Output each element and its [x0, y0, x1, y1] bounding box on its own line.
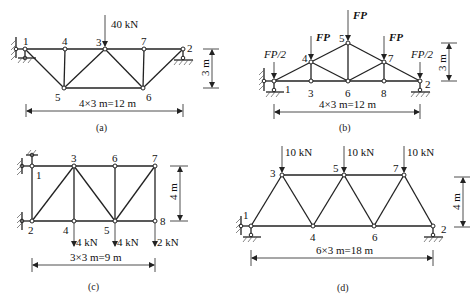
node-label: 5: [333, 162, 339, 174]
node-label: 1: [243, 209, 249, 221]
height-label-a: 3 m: [199, 59, 211, 76]
span-label-b: 4×3 m=12 m: [319, 98, 376, 110]
node-label: 3: [308, 87, 314, 99]
support-node1-c: [17, 150, 38, 175]
load-label-b: FP/2: [410, 48, 433, 60]
load-label-b: FP: [352, 9, 367, 21]
truss-members-b: [274, 43, 420, 81]
node-label: 1: [23, 35, 29, 47]
span-label-c: 3×3 m=9 m: [70, 251, 122, 263]
load-label-c: 4 kN: [117, 236, 139, 248]
node-label: 6: [146, 91, 152, 103]
caption-d: (d): [337, 282, 349, 294]
node-label: 4: [62, 35, 68, 47]
support-left-b: [259, 68, 284, 97]
span-label-d: 6×3 m=18 m: [316, 244, 373, 256]
load-label-d: 10 kN: [407, 146, 434, 158]
node-label: 2: [441, 223, 447, 235]
panel-c: 4 kN 4 kN 2 kN 1 3 6 7 2 4 5 8 4 m 3×3 m…: [17, 150, 188, 293]
height-label-b: 3 m: [436, 54, 448, 71]
load-label-d: 10 kN: [347, 146, 374, 158]
load-label-c: 2 kN: [157, 236, 179, 248]
node-label: 4: [310, 231, 316, 243]
node-label: 3: [96, 36, 102, 48]
node-label: 5: [104, 224, 110, 236]
load-label-b: FP: [388, 31, 403, 43]
panel-a: 40 kN 1 4 3 7 2 5 6 3 m 4×3 m=12 m (a): [11, 15, 219, 134]
node-label: 8: [381, 87, 387, 99]
support-left-d: [236, 216, 261, 242]
truss-nodes-a: [23, 47, 185, 90]
truss-members-a: [25, 49, 183, 88]
span-label-a: 4×3 m=12 m: [79, 97, 136, 109]
node-label: 2: [425, 78, 431, 90]
load-label-b: FP: [315, 31, 330, 43]
truss-nodes-c: [30, 164, 157, 223]
truss-nodes-b: [272, 41, 422, 83]
node-label: 3: [71, 152, 77, 164]
node-label: 5: [55, 91, 61, 103]
node-label: 6: [112, 152, 118, 164]
caption-b: (b): [339, 122, 351, 134]
truss-members-c: [32, 166, 155, 221]
height-label-c: 4 m: [167, 183, 179, 200]
load-label-c: 4 kN: [76, 236, 98, 248]
node-label: 7: [393, 162, 399, 174]
load-label-a: 40 kN: [111, 18, 138, 30]
truss-members-d: [251, 175, 433, 226]
truss-figure: 40 kN 1 4 3 7 2 5 6 3 m 4×3 m=12 m (a): [0, 0, 476, 302]
node-label: 1: [285, 83, 291, 95]
node-label: 4: [302, 52, 308, 64]
node-label: 7: [141, 35, 147, 47]
node-label: 2: [187, 42, 193, 54]
height-label-d: 4 m: [450, 193, 462, 210]
node-label: 8: [160, 215, 166, 227]
node-label: 7: [152, 152, 158, 164]
caption-c: (c): [88, 281, 99, 293]
node-label: 1: [36, 169, 42, 181]
caption-a: (a): [96, 122, 107, 134]
node-label: 2: [28, 224, 34, 236]
panel-b: FP/2 FP FP FP FP/2 1 3 6 8 2 4 5 7 3 m 4…: [259, 9, 457, 134]
panel-d: 10 kN 10 kN 10 kN 1 3 5 7 4 6 2 4 m 6×3 …: [236, 146, 470, 294]
load-label-d: 10 kN: [285, 146, 312, 158]
load-label-b: FP/2: [263, 48, 286, 60]
node-label: 3: [270, 167, 276, 179]
node-label: 7: [388, 52, 394, 64]
node-label: 6: [372, 231, 378, 243]
node-label: 5: [339, 32, 345, 44]
node-label: 4: [63, 224, 69, 236]
